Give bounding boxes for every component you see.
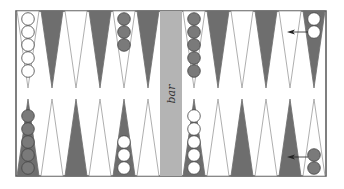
checker-dark[interactable]: [22, 110, 35, 123]
checker-dark[interactable]: [188, 13, 201, 26]
checker-white[interactable]: [308, 13, 321, 26]
checker-dark[interactable]: [22, 136, 35, 149]
checker-white[interactable]: [188, 123, 201, 136]
checker-white[interactable]: [308, 26, 321, 39]
checker-white[interactable]: [118, 149, 131, 162]
checker-dark[interactable]: [118, 39, 131, 52]
checker-dark[interactable]: [188, 26, 201, 39]
checker-white[interactable]: [188, 149, 201, 162]
checker-dark[interactable]: [118, 13, 131, 26]
checker-white[interactable]: [188, 162, 201, 175]
checker-dark[interactable]: [188, 52, 201, 65]
checker-white[interactable]: [22, 26, 35, 39]
checker-dark[interactable]: [308, 149, 321, 162]
checker-dark[interactable]: [22, 162, 35, 175]
checker-dark[interactable]: [22, 149, 35, 162]
checker-white[interactable]: [118, 162, 131, 175]
checker-dark[interactable]: [308, 162, 321, 175]
checker-dark[interactable]: [118, 26, 131, 39]
checker-white[interactable]: [118, 136, 131, 149]
backgammon-board: bar: [0, 0, 344, 189]
checker-white[interactable]: [22, 39, 35, 52]
checker-dark[interactable]: [188, 65, 201, 78]
checker-white[interactable]: [22, 65, 35, 78]
checker-white[interactable]: [188, 136, 201, 149]
checker-white[interactable]: [22, 13, 35, 26]
bar-label: bar: [165, 84, 178, 104]
checker-dark[interactable]: [22, 123, 35, 136]
checker-white[interactable]: [188, 110, 201, 123]
checker-dark[interactable]: [188, 39, 201, 52]
checker-white[interactable]: [22, 52, 35, 65]
